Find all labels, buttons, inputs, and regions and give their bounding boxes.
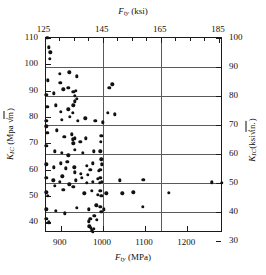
data-point [113,113,116,116]
data-point [121,192,124,195]
right-axis-subscript: IC [250,149,258,156]
data-point [90,189,93,192]
tick-label-left: 60 [29,164,38,173]
gridline-vertical [103,38,104,231]
data-point [45,190,48,193]
data-point [61,175,64,178]
data-point [62,188,65,191]
tick-right [216,67,221,68]
tick-label-right: 90 [229,62,238,71]
data-point [53,184,56,187]
data-point [84,136,87,139]
tick-label-left: 90 [29,85,38,94]
right-axis-radicand: in. [246,121,257,131]
data-point [58,72,61,75]
tick-label-left: 110 [25,33,38,42]
right-axis-symbol: K [247,156,257,162]
data-point [86,173,89,176]
data-point [47,46,50,49]
bottom-axis-unit: (MPa) [126,252,151,262]
data-point [48,57,51,60]
data-point [46,131,49,134]
data-point [75,97,78,100]
data-point [46,78,49,81]
tick-label-right: 40 [229,207,238,216]
data-point [99,189,102,192]
tick-bottom [103,226,104,231]
left-axis-title: KIC (Mpa √m) [5,108,16,160]
data-point [47,221,50,224]
data-point [79,172,82,175]
gridline-horizontal [46,67,221,68]
data-point [89,217,92,220]
data-point [220,181,223,184]
tick-top-minor [190,38,191,41]
gridline-vertical [161,38,162,231]
data-point [52,92,55,95]
data-point [52,165,55,168]
data-point [67,71,70,74]
data-point [108,86,111,89]
data-point [89,168,92,171]
data-point [92,150,95,153]
data-point [45,217,48,220]
tick-label-right: 100 [229,33,243,42]
data-point [83,192,86,195]
tick-label-bottom: 1100 [135,238,153,247]
data-point [76,119,79,122]
tick-label-right: 70 [229,120,238,129]
tick-top-minor [117,38,118,41]
data-point [73,136,76,139]
tick-label-right: 60 [229,149,238,158]
tick-right [216,125,221,126]
data-point [51,179,54,182]
tick-top-minor [132,38,133,41]
data-point [73,171,76,174]
data-point [102,208,105,211]
data-point [70,132,73,135]
data-point [54,103,57,106]
data-point [45,163,48,166]
tick-top-minor [204,38,205,41]
data-point [46,36,49,39]
tick-right [216,212,221,213]
tick-label-left: 70 [29,138,38,147]
gridline-horizontal [46,154,221,155]
data-point [45,119,48,122]
right-axis-title: KIC(ksi√in.) [247,118,258,162]
top-axis-title: Fty (ksi) [118,6,147,17]
data-point [59,161,62,164]
tick-right [216,241,221,242]
tick-top-minor [175,38,176,41]
tick-top-minor [59,38,60,41]
tick-label-top: 125 [37,25,51,34]
data-point [72,103,75,106]
data-point [45,144,48,147]
data-point [106,111,109,114]
data-point [53,150,56,153]
data-point [73,148,76,151]
tick-top-major [161,38,162,43]
bottom-axis-title: Fty (MPa) [115,252,151,263]
data-point [67,86,70,89]
data-point [59,110,62,113]
tick-bottom [61,226,62,231]
gridline-horizontal [46,212,221,213]
data-point [73,100,76,103]
data-point [94,119,97,122]
tick-bottom [145,226,146,231]
top-axis-unit: (ksi) [129,6,148,16]
data-point [118,179,121,182]
data-point [59,81,62,84]
data-point [68,115,71,118]
data-point [94,204,97,207]
left-axis-radicand: m [4,111,15,119]
data-point [63,212,66,215]
tick-right [216,38,221,39]
right-axis-close-paren: ) [247,118,257,121]
data-point [75,75,78,78]
data-point [80,176,83,179]
right-axis-unit: (ksi [247,135,257,149]
data-point [105,192,108,195]
gridline-horizontal [46,183,221,184]
